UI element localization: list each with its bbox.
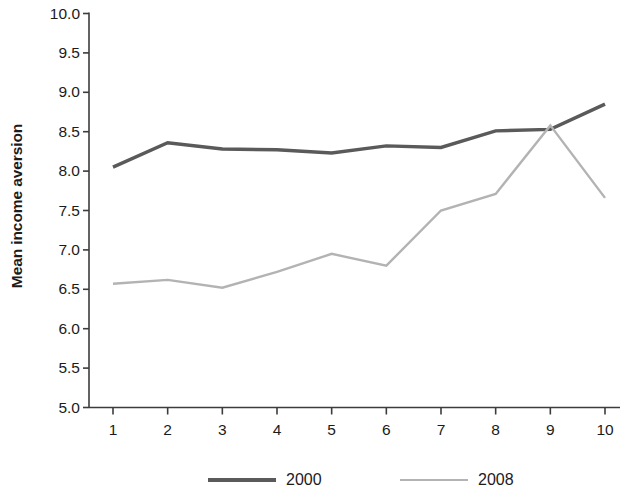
x-axis-tick-label: 7 <box>437 421 446 439</box>
y-axis-tick-label: 6.5 <box>34 280 80 298</box>
y-axis-tick-label: 8.5 <box>34 123 80 141</box>
chart-figure: Mean income aversion 5.05.56.06.57.07.58… <box>0 0 628 499</box>
y-axis-tick-label: 7.0 <box>34 241 80 259</box>
x-axis-tick-label: 6 <box>382 421 391 439</box>
x-axis-tick-label: 5 <box>327 421 336 439</box>
y-axis-tick-label: 7.5 <box>34 202 80 220</box>
plot-area <box>0 0 628 499</box>
y-axis-tick-label: 6.0 <box>34 320 80 338</box>
y-axis-tick-label: 10.0 <box>34 5 80 23</box>
x-axis-tick-label: 8 <box>491 421 500 439</box>
y-axis-tick-label: 5.0 <box>34 399 80 417</box>
y-axis-tick-label: 5.5 <box>34 359 80 377</box>
x-axis-tick-label: 4 <box>273 421 282 439</box>
legend-swatch-2008 <box>400 479 468 481</box>
y-axis-tick-label: 9.5 <box>34 44 80 62</box>
x-axis-tick-label: 3 <box>218 421 227 439</box>
legend-label-2000: 2000 <box>286 471 322 489</box>
x-axis-tick-label: 10 <box>596 421 613 439</box>
y-axis-tick-label: 8.0 <box>34 162 80 180</box>
series-line-2000 <box>113 104 605 167</box>
x-axis-tick-label: 9 <box>546 421 555 439</box>
legend-label-2008: 2008 <box>478 471 514 489</box>
legend-swatch-2000 <box>208 478 276 481</box>
x-axis-tick-label: 2 <box>163 421 172 439</box>
x-axis-tick-label: 1 <box>109 421 118 439</box>
y-axis-tick-label: 9.0 <box>34 83 80 101</box>
